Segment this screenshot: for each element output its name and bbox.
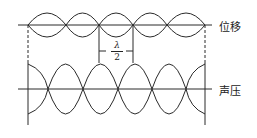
lambda-symbol: λ xyxy=(108,41,126,50)
pressure-label: 声压 xyxy=(219,82,241,98)
denominator: 2 xyxy=(108,53,126,62)
half-wavelength-label: λ 2 xyxy=(108,41,126,62)
displacement-label: 位移 xyxy=(219,18,241,34)
